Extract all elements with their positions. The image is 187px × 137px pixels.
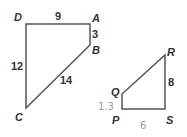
vertex-label-d: D [14,11,22,23]
side-length-bc: 14 [60,74,73,86]
vertex-label-q: Q [111,86,120,98]
side-length-rs: 8 [168,76,174,88]
vertex-label-p: P [112,114,120,126]
quadrilateral-dabc [26,24,90,108]
handwritten-qp: 1.3 [98,101,114,112]
vertex-label-s: S [166,114,174,126]
quadrilateral-rqps [122,55,165,109]
side-length-dc: 12 [11,60,23,72]
vertex-label-r: R [167,46,175,58]
side-length-ab: 3 [92,28,98,40]
vertex-label-a: A [91,12,100,24]
handwritten-ps: 6 [140,120,146,131]
vertex-label-b: B [92,44,100,56]
side-length-da: 9 [55,10,61,22]
similar-quadrilaterals-diagram: D A B C 9 3 12 14 R Q P S 8 1.3 6 [0,0,187,137]
vertex-label-c: C [15,111,24,123]
